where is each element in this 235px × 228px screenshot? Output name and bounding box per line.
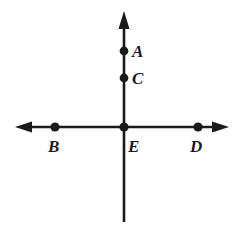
point-dot-a [120, 47, 129, 56]
point-label-a: A [132, 43, 143, 60]
point-label-e: E [128, 138, 139, 155]
point-dot-e [119, 122, 128, 131]
diagram-svg [0, 0, 235, 228]
left-arrowhead-icon [15, 122, 32, 133]
geometry-diagram: A C B E D [0, 0, 235, 228]
point-dot-d [193, 122, 202, 131]
up-arrowhead-icon [119, 11, 130, 29]
point-dot-c [120, 74, 129, 83]
point-dot-b [50, 122, 59, 131]
right-arrowhead-icon [212, 122, 229, 133]
point-label-b: B [48, 138, 59, 155]
point-label-c: C [132, 70, 143, 87]
point-label-d: D [190, 138, 202, 155]
